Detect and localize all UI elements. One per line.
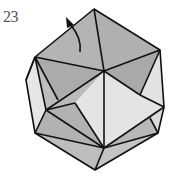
origami-model-diagram [0,0,174,183]
